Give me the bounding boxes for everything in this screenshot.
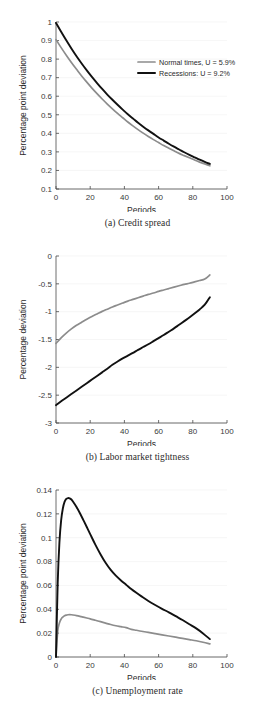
x-tick-label: 0 <box>54 193 59 202</box>
y-tick-label: 0.12 <box>36 510 52 519</box>
legend-label-recessions: Recessions: U = 9.2% <box>159 69 231 78</box>
y-tick-label: -2.5 <box>38 391 52 400</box>
x-tick-label: 60 <box>154 427 163 436</box>
x-axis-label: Periods <box>127 673 156 680</box>
y-axis-label: Percentage point deviation <box>18 523 28 624</box>
panel-a-plot-area: 0.10.20.30.40.50.60.70.80.91020406080100… <box>0 0 275 212</box>
x-tick-label: 0 <box>54 661 59 670</box>
y-tick-label: 0.02 <box>36 629 52 638</box>
y-tick-label: 0.8 <box>41 55 53 64</box>
panel-b-plot-area: -3-2.5-2-1.5-1-0.50020406080100PeriodsPe… <box>0 234 275 446</box>
y-tick-label: 0.3 <box>41 148 53 157</box>
y-tick-label: 0.04 <box>36 605 52 614</box>
y-tick-label: 0 <box>48 653 53 662</box>
y-tick-label: 0.2 <box>41 166 53 175</box>
chart-unemployment-rate: 00.020.040.060.080.10.120.14020406080100… <box>0 468 275 680</box>
x-axis-label: Periods <box>127 205 156 212</box>
y-tick-label: 0.14 <box>36 486 52 495</box>
x-tick-label: 20 <box>86 427 95 436</box>
panel-c-plot-area: 00.020.040.060.080.10.120.14020406080100… <box>0 468 275 680</box>
x-tick-label: 40 <box>120 193 129 202</box>
panel-unemployment-rate: 00.020.040.060.080.10.120.14020406080100… <box>0 468 275 702</box>
y-tick-label: -1 <box>45 307 53 316</box>
y-tick-label: 1 <box>48 18 53 27</box>
x-tick-label: 60 <box>154 193 163 202</box>
x-tick-label: 80 <box>188 427 197 436</box>
y-tick-label: 0.1 <box>41 185 53 194</box>
y-tick-label: 0.08 <box>36 557 52 566</box>
series-line-recessions <box>56 23 210 164</box>
chart-labor-market-tightness: -3-2.5-2-1.5-1-0.50020406080100PeriodsPe… <box>0 234 275 446</box>
x-tick-label: 60 <box>154 661 163 670</box>
x-tick-label: 0 <box>54 427 59 436</box>
x-axis-label: Periods <box>127 439 156 446</box>
y-tick-label: -2 <box>45 363 53 372</box>
panel-c-caption: (c) Unemployment rate <box>0 686 275 696</box>
x-tick-label: 100 <box>220 661 234 670</box>
figure-impulse-responses: 0.10.20.30.40.50.60.70.80.91020406080100… <box>0 0 275 704</box>
y-tick-label: 0.5 <box>41 111 53 120</box>
panel-a-caption: (a) Credit spread <box>0 218 275 228</box>
x-tick-label: 100 <box>220 193 234 202</box>
panel-credit-spread: 0.10.20.30.40.50.60.70.80.91020406080100… <box>0 0 275 234</box>
y-tick-label: 0.1 <box>41 534 53 543</box>
panel-labor-market-tightness: -3-2.5-2-1.5-1-0.50020406080100PeriodsPe… <box>0 234 275 468</box>
y-axis-label: Percentage deviation <box>18 299 28 379</box>
x-tick-label: 80 <box>188 661 197 670</box>
series-line-normal-times <box>56 615 210 657</box>
x-tick-label: 20 <box>86 193 95 202</box>
panel-b-caption: (b) Labor market tightness <box>0 452 275 462</box>
y-tick-label: 0.06 <box>36 581 52 590</box>
y-tick-label: 0 <box>48 252 53 261</box>
y-tick-label: 0.4 <box>41 129 53 138</box>
y-tick-label: 0.6 <box>41 92 53 101</box>
x-tick-label: 80 <box>188 193 197 202</box>
y-tick-label: -0.5 <box>38 280 52 289</box>
legend-label-normal-times: Normal times, U = 5.9% <box>159 58 236 67</box>
series-line-normal-times <box>56 275 210 343</box>
series-line-recessions <box>56 297 210 405</box>
x-tick-label: 40 <box>120 661 129 670</box>
y-tick-label: 0.7 <box>41 73 53 82</box>
y-tick-label: 0.9 <box>41 36 53 45</box>
chart-credit-spread: 0.10.20.30.40.50.60.70.80.91020406080100… <box>0 0 275 212</box>
y-tick-label: -1.5 <box>38 335 52 344</box>
y-tick-label: -3 <box>45 419 53 428</box>
x-tick-label: 20 <box>86 661 95 670</box>
y-axis-label: Percentage point deviation <box>18 55 28 156</box>
x-tick-label: 100 <box>220 427 234 436</box>
x-tick-label: 40 <box>120 427 129 436</box>
